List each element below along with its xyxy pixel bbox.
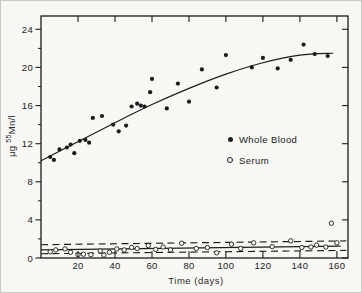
- tick-label: 20: [72, 260, 83, 271]
- y-axis-label-element: Mn/l: [6, 115, 17, 134]
- filled-circle-icon: [225, 137, 235, 142]
- tick-label: 12: [22, 138, 33, 149]
- whole-blood-point: [48, 155, 52, 159]
- tick-label: 140: [292, 260, 309, 271]
- tick-label: 0: [27, 253, 33, 264]
- serum-upper-band: [41, 241, 346, 245]
- serum-point: [179, 241, 183, 245]
- serum-point: [300, 245, 304, 249]
- serum-point: [194, 246, 198, 250]
- whole-blood-point: [326, 54, 330, 58]
- serum-point: [324, 245, 328, 249]
- whole-blood-point: [65, 145, 69, 149]
- tick-label: 60: [146, 260, 157, 271]
- serum-point: [129, 245, 133, 249]
- serum-point: [102, 253, 106, 257]
- serum-point: [54, 248, 58, 252]
- whole-blood-point: [124, 124, 128, 128]
- whole-blood-point: [176, 82, 180, 86]
- serum-point: [89, 253, 93, 257]
- whole-blood-point: [250, 65, 254, 69]
- serum-point: [335, 241, 339, 245]
- serum-point: [270, 244, 274, 248]
- serum-point: [115, 247, 119, 251]
- whole-blood-point: [143, 104, 147, 108]
- whole-blood-point: [91, 116, 95, 120]
- serum-point: [135, 246, 139, 250]
- whole-blood-point: [276, 66, 280, 70]
- tick-label: 40: [109, 260, 120, 271]
- whole-blood-point: [111, 123, 115, 127]
- legend-item-serum: Serum: [225, 153, 297, 167]
- tick-label: 120: [255, 260, 272, 271]
- whole-blood-point: [87, 141, 91, 145]
- serum-point: [215, 251, 219, 255]
- whole-blood-point: [302, 43, 306, 47]
- serum-point: [252, 241, 256, 245]
- whole-blood-point: [52, 158, 56, 162]
- tick-label: 160: [329, 260, 346, 271]
- serum-point: [107, 250, 111, 254]
- whole-blood-point: [72, 151, 76, 155]
- whole-blood-point: [289, 58, 293, 62]
- serum-point: [314, 243, 318, 247]
- serum-point: [48, 250, 52, 254]
- tick-label: 8: [27, 176, 33, 187]
- chart-plot-area: 2040608010012014016004812162024: [1, 1, 362, 293]
- figure-manganese-uptake-chart: 2040608010012014016004812162024 μg 55Mn/…: [0, 0, 362, 293]
- whole-blood-point: [57, 147, 61, 151]
- whole-blood-point: [200, 67, 204, 71]
- whole-blood-point: [313, 52, 317, 56]
- serum-point: [309, 245, 313, 249]
- tick-label: 4: [27, 214, 33, 225]
- serum-point: [229, 242, 233, 246]
- serum-point: [98, 249, 102, 253]
- y-axis-label: μg 55Mn/l: [5, 96, 21, 176]
- y-axis-label-isotope: 55: [5, 134, 12, 142]
- tick-label: 16: [22, 100, 33, 111]
- whole-blood-point: [69, 143, 73, 147]
- open-circle-icon: [225, 157, 235, 163]
- whole-blood-point: [100, 114, 104, 118]
- legend-item-whole-blood: Whole Blood: [225, 132, 297, 146]
- serum-point: [168, 248, 172, 252]
- serum-point: [329, 221, 333, 225]
- serum-mean-line: [41, 246, 341, 250]
- tick-label: 80: [183, 260, 194, 271]
- serum-point: [63, 247, 67, 251]
- tick-label: 24: [22, 24, 33, 35]
- legend-label-whole-blood: Whole Blood: [239, 134, 297, 145]
- serum-point: [161, 245, 165, 249]
- whole-blood-point: [139, 104, 143, 108]
- serum-point: [205, 245, 209, 249]
- whole-blood-point: [78, 139, 82, 143]
- serum-point: [154, 247, 158, 251]
- whole-blood-point: [135, 102, 139, 106]
- whole-blood-point: [150, 77, 154, 81]
- serum-point: [289, 239, 293, 243]
- whole-blood-point: [261, 56, 265, 60]
- whole-blood-point: [130, 104, 134, 108]
- whole-blood-point: [117, 129, 121, 133]
- whole-blood-point: [83, 138, 87, 142]
- tick-label: 100: [218, 260, 235, 271]
- legend-label-serum: Serum: [239, 155, 269, 166]
- serum-point: [81, 252, 85, 256]
- serum-point: [122, 248, 126, 252]
- whole-blood-point: [215, 85, 219, 89]
- whole-blood-point: [165, 106, 169, 110]
- whole-blood-point: [148, 90, 152, 94]
- x-axis-label: Time (days): [131, 275, 261, 286]
- serum-point: [68, 250, 72, 254]
- legend: Whole Blood Serum: [225, 132, 297, 174]
- whole-blood-point: [224, 53, 228, 57]
- y-axis-label-unit: μg: [6, 143, 17, 157]
- serum-point: [146, 243, 150, 247]
- whole-blood-point: [187, 100, 191, 104]
- serum-point: [239, 246, 243, 250]
- tick-label: 20: [22, 62, 33, 73]
